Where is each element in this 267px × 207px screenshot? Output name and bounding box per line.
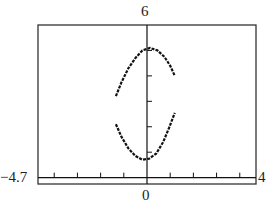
x-min-label: −4.7 xyxy=(0,170,27,185)
axes xyxy=(38,25,256,184)
x-max-label: 4 xyxy=(258,170,266,185)
curve-series xyxy=(116,48,175,160)
curve-upper-branch xyxy=(116,48,175,96)
x-origin-label: 0 xyxy=(142,188,150,203)
graph-plot xyxy=(0,0,267,207)
curve-lower-branch xyxy=(116,113,175,160)
y-max-label: 6 xyxy=(141,4,149,19)
